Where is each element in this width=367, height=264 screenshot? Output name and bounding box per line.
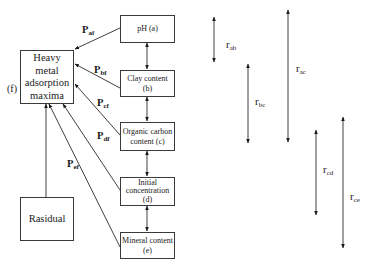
residual-label: Rasidual <box>29 213 66 226</box>
corr-label-cd: rcd <box>323 163 333 177</box>
residual-box: Rasidual <box>20 197 74 241</box>
factor-box-initial-concentration: Initial concentration (d) <box>120 177 175 206</box>
factor-b-line-2: (b) <box>127 84 168 94</box>
target-line-2: adsorption <box>21 77 73 90</box>
factor-e-line-2: (e) <box>122 246 173 256</box>
factor-c-line-2: content (c) <box>123 137 172 147</box>
corr-label-ab: rab <box>226 38 236 52</box>
corr-label-bc: rbc <box>255 95 265 109</box>
factor-box-mineral: Mineral content (e) <box>120 232 175 259</box>
factor-a-label: pH (a) <box>137 24 158 34</box>
factor-box-ph: pH (a) <box>120 15 175 43</box>
factor-d-line-3: (d) <box>126 196 170 205</box>
target-line-1: Heavy metal <box>21 52 73 77</box>
path-label-df: Pdf <box>97 130 110 143</box>
factor-c-line-1: Organic carbon <box>123 127 172 137</box>
path-label-ef: Pef <box>67 158 79 171</box>
path-analysis-diagram: Heavy metal adsorption maxima (f) Rasidu… <box>0 0 367 264</box>
corr-label-ce: rce <box>350 190 360 204</box>
path-label-cf: Pcf <box>97 97 109 110</box>
path-label-af: Paf <box>82 24 94 37</box>
factor-box-organic-carbon: Organic carbon content (c) <box>120 122 175 151</box>
corr-label-ac: rac <box>296 62 306 76</box>
arrow-df <box>63 104 120 190</box>
target-line-3: maxima <box>21 90 73 103</box>
factor-box-clay: Clay content (b) <box>120 70 175 97</box>
factor-b-line-1: Clay content <box>127 74 168 84</box>
target-box-heavy-metal: Heavy metal adsorption maxima <box>20 50 74 104</box>
path-label-bf: Pbf <box>94 64 107 77</box>
target-tag: (f) <box>7 83 17 94</box>
factor-e-line-1: Mineral content <box>122 236 173 246</box>
